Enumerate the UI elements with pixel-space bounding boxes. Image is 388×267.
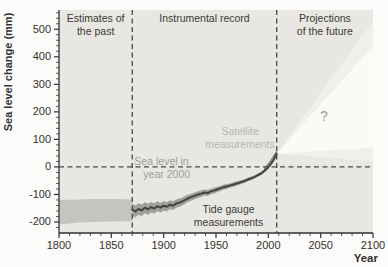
tide-gauge-label: Tide gauge	[202, 203, 254, 215]
section-label-0: the past	[77, 25, 114, 37]
projection-uncertainty-question: ?	[320, 108, 328, 124]
y-tick-label: 200	[33, 105, 51, 117]
y-tick-label: 500	[33, 23, 51, 35]
x-tick-label: 2100	[361, 239, 385, 251]
sea-level-chart-canvas: -200-10001002003004005001800185019001950…	[0, 0, 388, 267]
x-tick-label: 2000	[256, 239, 280, 251]
x-tick-label: 1950	[204, 239, 228, 251]
section-label-1: Instrumental record	[159, 12, 250, 24]
y-tick-label: -100	[29, 188, 51, 200]
y-tick-label: 400	[33, 50, 51, 62]
past-estimates-band	[59, 199, 132, 224]
y-tick-label: -200	[29, 215, 51, 227]
x-tick-label: 2050	[308, 239, 332, 251]
x-tick-label: 1900	[151, 239, 175, 251]
sea-level-change-figure: -200-10001002003004005001800185019001950…	[0, 0, 388, 267]
y-tick-label: 100	[33, 133, 51, 145]
section-label-2: of the future	[297, 25, 353, 37]
x-tick-label: 1850	[99, 239, 123, 251]
section-label-2: Projections	[299, 12, 351, 24]
sea-level-2000-label: year 2000	[143, 168, 190, 180]
y-tick-label: 300	[33, 78, 51, 90]
y-axis-title: Sea level change (mm)	[2, 12, 14, 131]
section-label-0: Estimates of	[67, 12, 125, 24]
x-tick-label: 1800	[47, 239, 71, 251]
tide-gauge-label: measurements	[194, 216, 263, 228]
x-axis-title: Year	[354, 252, 379, 264]
satellite-measurements-label: measurements	[205, 138, 274, 150]
y-tick-label: 0	[45, 160, 51, 172]
sea-level-2000-label: Sea level in	[134, 155, 188, 167]
satellite-measurements-label: Satellite	[221, 125, 259, 137]
